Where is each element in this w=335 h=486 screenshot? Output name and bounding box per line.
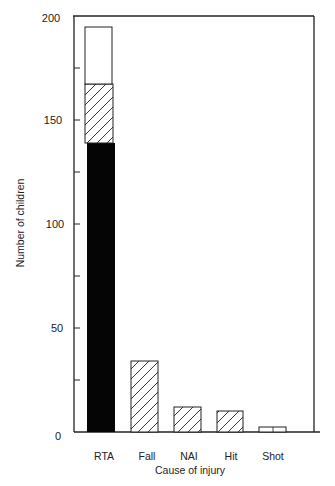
y-tick-label-100: 100 xyxy=(46,218,64,230)
y-tick-label-150: 150 xyxy=(44,114,62,126)
bar-shot xyxy=(259,427,286,432)
bar-rta-open xyxy=(85,27,112,84)
x-tick-label-fall: Fall xyxy=(139,450,156,462)
y-axis-title: Number of children xyxy=(14,178,26,267)
bar-fall xyxy=(131,361,158,432)
bar-rta-hatched xyxy=(85,84,113,143)
y-tick-label-200: 200 xyxy=(42,12,60,24)
bar-hit xyxy=(217,411,243,432)
y-ticks xyxy=(74,68,80,380)
x-tick-label-shot: Shot xyxy=(262,450,284,462)
x-tick-label-nai: NAI xyxy=(180,450,198,462)
y-tick-label-50: 50 xyxy=(51,322,63,334)
bar-rta-solid xyxy=(87,143,115,432)
bar-nai xyxy=(174,407,201,432)
bar-rta xyxy=(85,27,115,432)
x-tick-label-hit: Hit xyxy=(225,450,238,462)
y-tick-label-0: 0 xyxy=(55,430,61,442)
x-tick-label-rta: RTA xyxy=(94,450,114,462)
x-axis-title: Cause of injury xyxy=(155,464,226,476)
bar-chart: 0 50 100 150 200 Number of children RTA … xyxy=(0,0,335,486)
